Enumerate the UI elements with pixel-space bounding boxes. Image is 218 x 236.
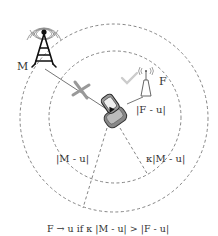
femto-access-point-icon <box>139 67 154 96</box>
femto-link-line <box>127 97 143 104</box>
femto-label: F <box>159 75 167 88</box>
checkmark-icon <box>122 73 137 83</box>
macro-label: M <box>17 60 28 73</box>
macro-distance-label: |M - u| <box>56 153 89 165</box>
macro-link-line <box>45 69 108 110</box>
scaled-radius-line <box>120 128 148 175</box>
scaled-distance-label: κ|M - u| <box>146 153 185 165</box>
mobile-phone-icon <box>93 92 129 130</box>
blocked-cross-icon <box>73 82 89 98</box>
femto-distance-label: |F - u| <box>136 104 166 116</box>
macro-tower-icon <box>27 28 61 67</box>
macro-radius-line <box>83 128 107 208</box>
handover-rule-caption: F → u if κ |M - u| > |F - u| <box>47 223 169 235</box>
handover-diagram: M F |F - u| |M - u| κ|M - u| F → u if κ … <box>0 0 218 236</box>
